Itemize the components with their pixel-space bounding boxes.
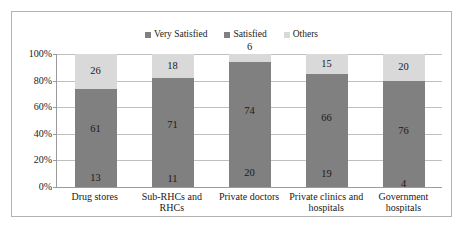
bar-segment-value: 74	[244, 106, 255, 117]
chart-legend: Very Satisfied Satisfied Others	[12, 30, 451, 40]
bar-segment-value: 18	[167, 61, 178, 72]
bar-segment-others[interactable]: 6	[229, 54, 271, 62]
bar-segment-value: 11	[167, 174, 177, 185]
bar-segment-satisfied[interactable]: 71	[152, 78, 194, 172]
bar-segment-value: 6	[247, 42, 252, 53]
bar-slot: 13 61 26	[57, 54, 134, 187]
x-axis-tick-label: Private doctors	[210, 189, 287, 213]
x-axis-tick-label: Private clinics and hospitals	[288, 189, 365, 213]
stacked-bar[interactable]: 4 76 20	[383, 54, 425, 187]
y-axis: 100% 80% 60% 40% 20% 0%	[12, 54, 56, 187]
bar-segment-very-satisfied[interactable]: 20	[229, 160, 271, 187]
legend-item-very-satisfied: Very Satisfied	[145, 30, 208, 40]
axis-baseline	[57, 187, 442, 188]
bar-segment-satisfied[interactable]: 66	[306, 74, 348, 162]
bar-segment-satisfied[interactable]: 74	[229, 62, 271, 160]
bar-segment-very-satisfied[interactable]: 19	[306, 162, 348, 187]
x-axis-tick-label: Drug stores	[56, 189, 133, 213]
legend-swatch-icon	[145, 32, 151, 38]
legend-label: Satisfied	[233, 30, 266, 40]
bar-segment-others[interactable]: 18	[152, 54, 194, 78]
x-axis-tick-label: Sub-RHCs and RHCs	[133, 189, 210, 213]
bar-segment-value: 26	[90, 66, 101, 77]
bar-segment-satisfied[interactable]: 76	[383, 81, 425, 182]
bar-segment-value: 13	[90, 173, 101, 184]
bar-slot: 11 71 18	[134, 54, 211, 187]
bar-slot: 19 66 15	[288, 54, 365, 187]
y-axis-tick-label: 80%	[34, 76, 52, 86]
bar-segment-value: 71	[167, 120, 178, 131]
bar-segment-very-satisfied[interactable]: 4	[383, 182, 425, 187]
y-axis-tick-label: 20%	[34, 155, 52, 165]
legend-label: Very Satisfied	[154, 30, 208, 40]
bar-slot: 4 76 20	[365, 54, 442, 187]
stacked-bar[interactable]: 11 71 18	[152, 54, 194, 187]
bar-group: 13 61 26 11	[57, 54, 442, 187]
bar-segment-value: 61	[90, 124, 101, 135]
legend-swatch-icon	[224, 32, 230, 38]
chart-container: Very Satisfied Satisfied Others 100% 80%…	[11, 11, 452, 217]
x-axis: Drug stores Sub-RHCs and RHCs Private do…	[56, 189, 442, 213]
y-axis-tick-label: 100%	[29, 49, 52, 59]
stacked-bar[interactable]: 19 66 15	[306, 54, 348, 187]
y-axis-tick-label: 40%	[34, 129, 52, 139]
bar-segment-value: 19	[321, 169, 332, 180]
bar-segment-others[interactable]: 26	[75, 54, 117, 89]
y-axis-tick-label: 0%	[39, 182, 52, 192]
bar-segment-value: 20	[398, 62, 409, 73]
plot-area: 13 61 26 11	[56, 54, 442, 187]
bar-segment-value: 20	[244, 168, 255, 179]
bar-segment-value: 76	[398, 126, 409, 137]
bar-segment-very-satisfied[interactable]: 13	[75, 170, 117, 187]
x-axis-tick-label: Government hospitals	[365, 189, 442, 213]
legend-label: Others	[293, 30, 318, 40]
legend-swatch-icon	[284, 32, 290, 38]
bar-slot: 20 74 6	[211, 54, 288, 187]
bar-segment-very-satisfied[interactable]: 11	[152, 172, 194, 187]
stacked-bar[interactable]: 20 74 6	[229, 54, 271, 187]
y-axis-tick-label: 60%	[34, 102, 52, 112]
bar-segment-others[interactable]: 20	[383, 54, 425, 81]
bar-segment-others[interactable]: 15	[306, 54, 348, 74]
bar-segment-value: 66	[321, 113, 332, 124]
bar-segment-satisfied[interactable]: 61	[75, 89, 117, 170]
bar-segment-value: 4	[401, 179, 406, 190]
plot-wrapper: 100% 80% 60% 40% 20% 0% 13	[12, 54, 453, 218]
bar-segment-value: 15	[321, 59, 332, 70]
legend-item-satisfied: Satisfied	[224, 30, 266, 40]
legend-item-others: Others	[284, 30, 318, 40]
stacked-bar[interactable]: 13 61 26	[75, 54, 117, 187]
